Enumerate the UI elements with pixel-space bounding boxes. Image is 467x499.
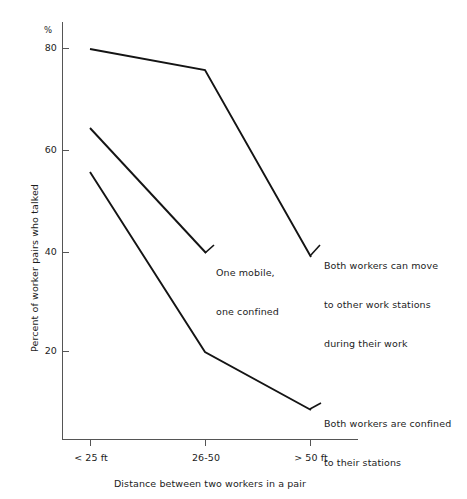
annotation-line-1: Both workers are confined <box>324 417 451 430</box>
annotation-line-3: during their work <box>324 337 438 350</box>
series-line-both-move <box>90 49 311 257</box>
y-tick-label-80: 80 <box>31 42 57 55</box>
series-annotation-both-confined: Both workers are confined to their stati… <box>324 391 451 495</box>
y-tick-label-60: 60 <box>31 144 57 157</box>
annotation-line-2: to other work stations <box>324 298 438 311</box>
annotation-line-1: Both workers can move <box>324 259 438 272</box>
x-tick-label-26-50: 26-50 <box>165 452 247 465</box>
series-annotation-one-mobile-one-confined: One mobile, one confined <box>216 240 279 344</box>
series-line-one-mobile-one-confined <box>90 128 206 253</box>
y-axis-title: Percent of worker pairs who talked <box>29 184 42 352</box>
annotation-line-2: one confined <box>216 305 279 318</box>
annotation-line-1: One mobile, <box>216 266 279 279</box>
annotation-line-2: to their stations <box>324 456 451 469</box>
y-axis-unit-label: % <box>44 24 52 37</box>
line-chart-figure: % 80 60 40 20 Percent of worker pairs wh… <box>0 0 467 499</box>
leader-both-move <box>310 245 320 256</box>
leader-one-mobile <box>205 245 214 253</box>
leader-both-confined <box>310 403 321 409</box>
x-tick-label-under-25ft: < 25 ft <box>50 452 132 465</box>
series-annotation-both-move: Both workers can move to other work stat… <box>324 233 438 376</box>
